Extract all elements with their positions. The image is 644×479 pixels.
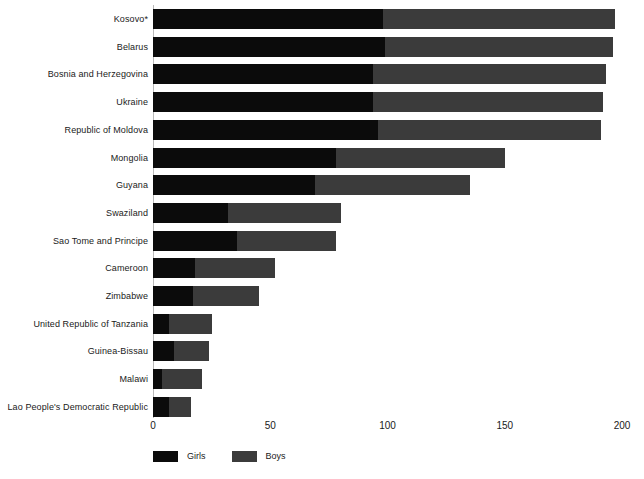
bar-segment-boys [195,258,275,278]
bar-segment-girls [153,148,336,168]
bar-segment-boys [373,64,605,84]
bar-segment-boys [169,314,211,334]
chart-legend: GirlsBoys [153,448,312,464]
bar-segment-girls [153,314,169,334]
bar-segment-girls [153,92,373,112]
bar-segment-girls [153,120,378,140]
stacked-bar-chart: Kosovo*BelarusBosnia and HerzegovinaUkra… [0,0,644,479]
bar-segment-boys [228,203,341,223]
bar-segment-boys [385,37,612,57]
bar-segment-boys [193,286,259,306]
x-axis-tick-label: 50 [265,420,276,431]
legend-label: Boys [266,451,286,461]
category-labels: Kosovo*BelarusBosnia and HerzegovinaUkra… [0,0,148,418]
bar-segment-boys [315,175,470,195]
bar-segment-girls [153,9,383,29]
bar-segment-girls [153,37,385,57]
bar-segment-girls [153,369,162,389]
category-label: Republic of Moldova [0,125,148,135]
category-label: Mongolia [0,153,148,163]
category-label: Malawi [0,374,148,384]
category-label: Belarus [0,42,148,52]
legend-item-girls[interactable]: Girls [153,451,206,462]
bar-segment-boys [162,369,202,389]
bar-segment-girls [153,286,193,306]
bar-segment-boys [373,92,603,112]
legend-swatch-icon [232,451,257,462]
bar-segment-boys [169,397,190,417]
bar-segment-girls [153,175,315,195]
category-label: Bosnia and Herzegovina [0,69,148,79]
x-axis-tick-label: 200 [614,420,631,431]
category-label: Ukraine [0,97,148,107]
plot-area [153,0,644,418]
bar-segment-girls [153,258,195,278]
category-label: Guinea-Bissau [0,346,148,356]
category-label: United Republic of Tanzania [0,319,148,329]
legend-item-boys[interactable]: Boys [232,451,286,462]
bar-segment-boys [237,231,335,251]
bar-segment-girls [153,341,174,361]
legend-label: Girls [187,451,206,461]
category-label: Kosovo* [0,14,148,24]
x-axis-tick-label: 100 [379,420,396,431]
bar-segment-girls [153,203,228,223]
category-label: Sao Tome and Principe [0,236,148,246]
category-label: Lao People's Democratic Republic [0,402,148,412]
x-axis-tick-label: 0 [150,420,156,431]
category-label: Swaziland [0,208,148,218]
category-label: Guyana [0,180,148,190]
legend-swatch-icon [153,451,178,462]
bar-segment-boys [383,9,615,29]
bar-segment-boys [378,120,601,140]
category-label: Cameroon [0,263,148,273]
bar-segment-girls [153,231,237,251]
x-axis-tick-label: 150 [496,420,513,431]
bar-segment-girls [153,64,373,84]
bar-segment-girls [153,397,169,417]
bar-segment-boys [336,148,505,168]
category-label: Zimbabwe [0,291,148,301]
bar-segment-boys [174,341,209,361]
